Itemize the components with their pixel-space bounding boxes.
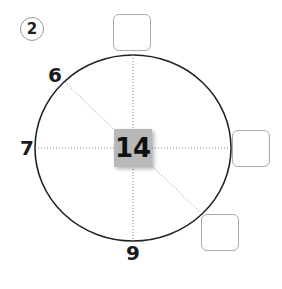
center-value: 14: [114, 129, 152, 167]
answer-box-right[interactable]: [232, 130, 270, 167]
answer-box-top[interactable]: [113, 14, 151, 51]
question-number: 2: [20, 17, 44, 41]
label-6: 6: [48, 65, 62, 85]
answer-box-bottom-right[interactable]: [201, 214, 239, 251]
label-7: 7: [20, 138, 34, 158]
label-9: 9: [126, 243, 140, 263]
